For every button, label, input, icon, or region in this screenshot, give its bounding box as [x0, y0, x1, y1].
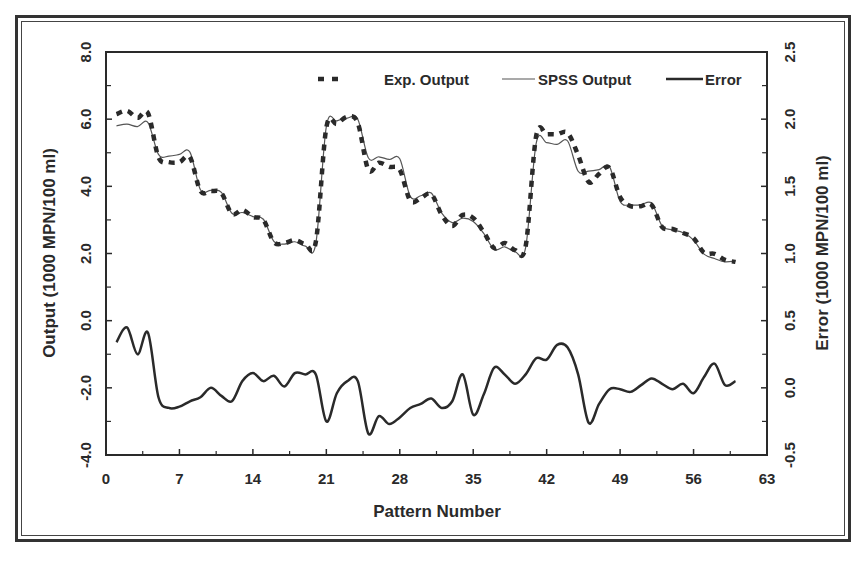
y-left-tick-label: 6.0	[77, 109, 94, 130]
y-right-tick-label: 1.0	[781, 243, 798, 264]
y-left-tick-label: -2.0	[77, 375, 94, 401]
series-spss-output	[116, 116, 735, 262]
plot-series	[116, 111, 735, 435]
y-right-axis-title: Error (1000 MPN/100 ml)	[813, 155, 832, 351]
y-right-tick-label: 2.5	[781, 42, 798, 63]
x-tick-label: 63	[759, 470, 776, 487]
x-tick-label: 21	[318, 470, 335, 487]
legend-label-exp: Exp. Output	[384, 71, 469, 88]
x-tick-label: 42	[538, 470, 555, 487]
y-left-tick-label: 2.0	[77, 243, 94, 264]
x-tick-label: 49	[612, 470, 629, 487]
y-right-tick-label: 1.5	[781, 176, 798, 197]
x-tick-label: 0	[102, 470, 110, 487]
y-left-axis-title: Output (1000 MPN/100 ml)	[40, 148, 59, 358]
plot-axes: 0714212835424956638.06.04.02.00.0-2.0-4.…	[77, 42, 798, 487]
x-tick-label: 35	[465, 470, 482, 487]
y-right-tick-label: -0.5	[781, 442, 798, 468]
legend-label-error: Error	[705, 71, 742, 88]
plot-area-border	[106, 52, 767, 455]
x-tick-label: 56	[685, 470, 702, 487]
series-exp-output	[116, 111, 735, 262]
y-right-tick-label: 0.0	[781, 377, 798, 398]
y-right-tick-label: 2.0	[781, 109, 798, 130]
x-tick-label: 7	[175, 470, 183, 487]
line-chart: 0714212835424956638.06.04.02.00.0-2.0-4.…	[0, 0, 866, 561]
legend: Exp. Output SPSS Output Error	[318, 71, 742, 88]
y-left-tick-label: -4.0	[77, 442, 94, 468]
y-left-tick-label: 0.0	[77, 310, 94, 331]
x-axis-title: Pattern Number	[373, 502, 501, 521]
legend-label-spss: SPSS Output	[538, 71, 631, 88]
series-error	[116, 327, 735, 434]
y-right-tick-label: 0.5	[781, 310, 798, 331]
y-left-tick-label: 8.0	[77, 42, 94, 63]
y-left-tick-label: 4.0	[77, 176, 94, 197]
x-tick-label: 14	[245, 470, 262, 487]
x-tick-label: 28	[391, 470, 408, 487]
